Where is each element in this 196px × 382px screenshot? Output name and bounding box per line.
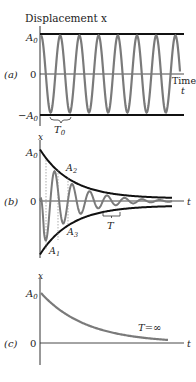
panel-b-annotation-a3: A3: [66, 226, 78, 239]
panel-a-period-brace: [50, 117, 71, 123]
panel-a-tick-zero: 0: [30, 69, 36, 80]
panel-a-period-label: T0: [54, 124, 66, 137]
panel-b-damped-curve: [40, 171, 172, 240]
panel-b-period-bracket: [103, 212, 120, 218]
panel-b-y-axis-label: x: [38, 132, 43, 142]
panel-b-x-axis-label: t: [187, 196, 191, 207]
panel-a-label: (a): [4, 69, 18, 80]
panel-b-tick-zero: 0: [30, 196, 36, 207]
panel-b-label: (b): [4, 196, 18, 207]
damped-oscillation-figure: Displacement x A0 0 (a) −A0 Time t T0 x …: [0, 0, 196, 382]
panel-c-curve-label: T=∞: [138, 322, 161, 333]
panel-b-annotation-a1: A1: [48, 245, 60, 258]
panel-a-tick-a0: A0: [25, 32, 38, 45]
panel-b-annotation-a2: A2: [65, 162, 77, 175]
panel-a-title: Displacement x: [25, 12, 107, 24]
panel-b-upper-envelope: [40, 150, 172, 198]
panel-b: x t A0 0 (b) A1 A2 A3 T: [4, 132, 191, 258]
panel-c-tick-zero: 0: [30, 338, 36, 349]
panel-a-time-symbol: t: [181, 85, 185, 96]
panel-c-y-axis-label: x: [38, 271, 43, 281]
panel-a-tick-neg-a0: −A0: [18, 110, 39, 123]
panel-c-label: (c): [4, 338, 18, 349]
panel-b-period-label: T: [107, 220, 115, 231]
panel-b-tick-a0: A0: [25, 147, 38, 160]
panel-c-tick-a0: A0: [25, 288, 38, 301]
panel-c: x t A0 0 (c) T=∞: [4, 271, 191, 365]
panel-c-x-axis-label: t: [187, 338, 191, 349]
panel-a: Displacement x A0 0 (a) −A0 Time t T0: [4, 12, 196, 137]
